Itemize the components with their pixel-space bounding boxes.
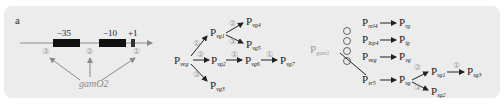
site-3: ③ [42, 48, 49, 56]
node-Psg: Psg [399, 74, 410, 86]
node-Psg1: Psg1 [431, 66, 445, 78]
edge-label-sg-sg1: ② [414, 64, 421, 72]
label-plus1: +1 [128, 29, 138, 38]
gamO2-arrow-1 [102, 58, 135, 80]
node-Plep4: Plep4 [362, 34, 378, 46]
edge-label-veg-vg2: ② [197, 51, 204, 59]
site-2: ② [86, 48, 93, 56]
label-minus10: −10 [103, 29, 117, 38]
node-Plg: Plg [399, 34, 410, 46]
node-Psg3: Psg3 [467, 66, 481, 78]
label-minus35: −35 [57, 29, 71, 38]
node-Pveg: Pveg [174, 55, 188, 67]
node-Prg: Prg [399, 17, 410, 29]
gamO2-arrow-3 [50, 58, 80, 80]
edge-label-sg-sg2: ③ [414, 84, 421, 92]
edge-label-veg-vg1: ① [193, 40, 200, 48]
panel-label: a [15, 15, 20, 26]
node-Pvg: Pvg [399, 51, 411, 63]
box-plus1 [131, 39, 135, 47]
node-Pvg3: Pvg3 [210, 80, 225, 92]
node-Pvg5: Pvg5 [246, 39, 261, 51]
node-Pvg2: Pvg2 [211, 55, 226, 67]
edge-label-vg6-vg7: ① [266, 51, 273, 59]
edge-label-vg1-vg5: ③ [229, 38, 236, 46]
node-Pvg6: Pvg6 [245, 55, 260, 67]
edge-label-vg2-vg6: ① [231, 51, 238, 59]
node-Pveg-combo: Pveg [362, 51, 376, 63]
node-Prel4: Prel4 [362, 17, 378, 29]
node-Pvg1: Pvg1 [210, 27, 225, 39]
box-minus10 [99, 39, 126, 47]
node-Pgam1: Pgam1 [310, 44, 329, 56]
edge-label-sg1-sg3: ① [453, 62, 460, 70]
node-Psg2: Psg2 [431, 86, 445, 98]
node-Pvg7: Pvg7 [280, 55, 295, 67]
node-Psr5: Psr5 [362, 74, 376, 86]
node-Pvg4: Pvg4 [246, 16, 261, 28]
regulator-gamO2: gamO2 [79, 79, 108, 89]
edge-label-vg1-vg4: ② [229, 20, 236, 28]
box-minus35 [53, 39, 80, 47]
edge-label-veg-vg3: ③ [193, 71, 200, 79]
site-1: ① [133, 48, 140, 56]
